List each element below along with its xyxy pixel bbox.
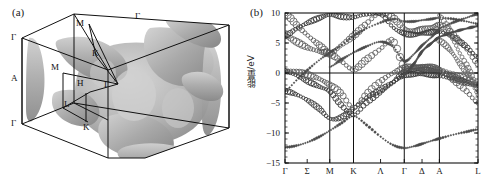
band-marker [371,128,373,130]
band-marker [475,23,477,25]
band-marker [329,66,330,67]
band-marker [365,124,367,126]
band-marker [324,133,326,135]
band-marker [298,144,300,146]
band-marker [332,65,333,66]
band-marker [334,126,336,128]
band-marker [377,23,379,25]
band-marker [467,17,468,18]
band-marker [447,17,449,19]
band-marker [465,17,466,18]
band-marker [376,42,377,43]
band-marker [320,58,321,59]
bz-label-gamma-1: Γ [11,33,16,42]
band-marker [352,52,353,53]
band-marker [441,27,443,29]
band-marker [289,87,290,88]
band-marker [286,89,288,91]
band-marker [454,44,458,48]
band-marker [393,47,394,48]
band-marker [472,129,474,131]
y-tick-label: 5 [258,39,280,48]
band-marker [384,19,387,22]
band-marker [298,77,300,79]
bz-label-gamma-4: Γ [104,80,109,89]
band-marker [311,139,313,141]
band-marker [398,54,400,56]
band-marker [469,16,470,17]
band-marker [456,48,459,51]
band-marker [372,25,373,26]
band-marker [350,53,351,54]
band-marker [421,20,422,21]
band-marker [399,20,400,21]
x-tick-label: L [470,167,486,176]
band-marker [391,45,393,47]
band-marker [405,147,407,149]
band-marker [341,122,344,125]
band-marker [395,49,396,50]
band-marker [346,40,348,42]
band-marker [334,48,336,50]
band-marker [296,80,298,82]
band-marker [409,147,410,148]
band-marker [458,133,460,135]
band-marker [306,69,308,71]
band-marker [397,52,398,53]
y-tick-label: −10 [258,129,280,138]
band-marker [389,18,391,20]
band-marker [322,56,324,58]
band-marker [307,141,308,142]
band-marker [300,144,302,146]
band-marker [424,142,426,144]
band-marker [366,28,368,30]
band-marker [361,120,363,122]
band-marker [455,133,456,134]
x-tick-label: Γ [277,167,293,176]
band-marker [374,42,375,43]
band-marker [356,116,357,117]
y-tick-label: −5 [258,99,280,108]
band-marker [463,131,465,133]
band-marker [382,20,384,22]
band-marker [337,47,339,49]
band-marker [463,20,465,22]
band-marker [351,36,353,38]
band-marker [374,24,375,25]
band-marker [341,44,342,45]
band-marker [428,39,429,40]
band-marker [439,28,441,30]
brillouin-zone-diagram: Γ Γ Γ Γ A M M K K H L [0,0,245,185]
band-marker [403,21,405,23]
band-marker [389,44,391,46]
band-marker [445,136,447,138]
band-marker [346,55,348,57]
band-marker [461,18,463,20]
band-marker [425,41,427,43]
band-marker [372,43,373,44]
band-marker [380,136,382,138]
band-marker [468,21,469,22]
band-curve [284,116,479,149]
band-marker [311,65,313,67]
band-marker [475,129,477,131]
y-tick-label: 0 [258,69,280,78]
band-marker [330,129,331,130]
bz-label-gamma-3: Γ [11,119,16,128]
bz-label-m-1: M [76,19,84,28]
band-marker [332,128,334,130]
band-marker [378,41,380,43]
band-marker [377,134,379,136]
band-marker [430,140,431,141]
band-marker [300,75,302,77]
band-marker [447,135,449,137]
band-marker [363,29,365,31]
band-marker [369,26,370,27]
band-marker [412,54,413,55]
band-marker [302,73,304,75]
band-marker [348,54,349,55]
band-marker [450,18,452,20]
brillouin-zone-svg [0,0,245,185]
band-marker [293,82,294,83]
band-marker [326,132,327,133]
